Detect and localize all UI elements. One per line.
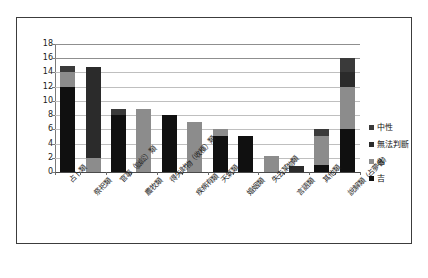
y-axis-tick-label: 18 [35,40,53,48]
legend-label: 無法判斷 [377,140,409,149]
bar-segment[interactable] [60,87,75,172]
bar-segment[interactable] [340,58,355,72]
chart-frame: 024681012141618 占卜類祭祀類官事（獄訟）類農牧類得失財物（收穫）… [16,17,412,244]
x-axis-tick-label: 農牧類 [142,175,164,197]
bar-segment[interactable] [60,72,75,86]
y-axis-tick-label: 8 [35,111,53,119]
y-axis-tick-label: 0 [35,168,53,176]
bar-group[interactable] [340,58,355,172]
y-axis-tick-label: 14 [35,68,53,76]
gridline [55,44,360,45]
y-axis-tick-label: 16 [35,54,53,62]
chart-legend: 中性無法判斷凶吉 [369,119,425,187]
legend-swatch [369,159,374,164]
legend-swatch [369,125,374,130]
plot-area [55,44,360,172]
bar-segment[interactable] [162,115,177,172]
legend-label: 吉 [377,174,385,183]
y-axis-tick-mark [52,44,55,45]
x-axis-tick-mark [309,172,310,175]
x-axis-tick-label: 言語類 [294,175,316,197]
y-axis-tick-label: 10 [35,97,53,105]
y-axis-tick-label: 2 [35,154,53,162]
legend-item[interactable]: 無法判斷 [369,136,425,153]
gridline [55,87,360,88]
bar-group[interactable] [238,136,253,172]
y-axis-tick-mark [52,72,55,73]
bar-group[interactable] [213,129,228,172]
bar-segment[interactable] [340,72,355,86]
y-axis-tick-label: 6 [35,125,53,133]
bar-group[interactable] [111,109,126,172]
bar-segment[interactable] [213,129,228,136]
gridline [55,72,360,73]
x-axis-tick-mark [106,172,107,175]
x-axis-tick-label: 婚姻類 [244,175,266,197]
gridline [55,115,360,116]
bar-segment[interactable] [238,136,253,172]
y-axis-tick-mark [52,144,55,145]
legend-swatch [369,142,374,147]
y-axis-tick-label: 12 [35,83,53,91]
gridline [55,58,360,59]
y-axis-tick-mark [52,101,55,102]
legend-label: 凶 [377,157,385,166]
legend-item[interactable]: 凶 [369,153,425,170]
legend-item[interactable]: 吉 [369,170,425,187]
y-axis-labels: 024681012141618 [33,44,53,172]
y-axis-tick-mark [52,58,55,59]
y-axis-tick-mark [52,115,55,116]
bar-segment[interactable] [314,136,329,164]
x-axis-tick-label: 疾病有類 [193,170,220,197]
y-axis-tick-mark [52,158,55,159]
x-axis-tick-mark [55,172,56,175]
bar-segment[interactable] [340,87,355,130]
bar-group[interactable] [314,129,329,172]
y-axis-tick-label: 4 [35,140,53,148]
bar-group[interactable] [60,66,75,172]
x-axis-tick-label: 祭祀類 [91,175,113,197]
bar-segment[interactable] [111,115,126,172]
y-axis-tick-mark [52,87,55,88]
legend-swatch [369,176,374,181]
x-axis-tick-mark [157,172,158,175]
bar-segment[interactable] [340,129,355,172]
y-axis-tick-mark [52,129,55,130]
gridline [55,101,360,102]
x-axis-tick-mark [258,172,259,175]
legend-label: 中性 [377,123,393,132]
legend-item[interactable]: 中性 [369,119,425,136]
bar-segment[interactable] [86,67,101,158]
bar-group[interactable] [86,67,101,172]
bar-group[interactable] [162,115,177,172]
bar-segment[interactable] [314,129,329,136]
